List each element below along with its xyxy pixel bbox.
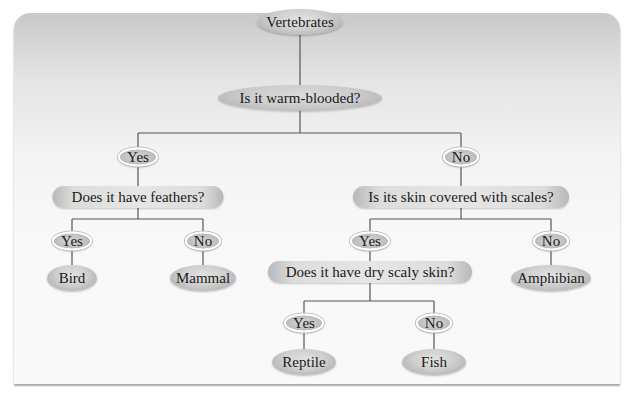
leaf-fish: Fish — [402, 349, 466, 375]
leaf-label: Mammal — [176, 271, 230, 286]
answer-yes-scales: Yes — [350, 232, 390, 251]
answer-no-dry-scaly-skin: No — [416, 314, 452, 333]
answer-yes-feathers: Yes — [52, 232, 92, 251]
question-feathers: Does it have feathers? — [53, 186, 224, 208]
leaf-mammal: Mammal — [170, 265, 236, 291]
answer-no-scales: No — [533, 232, 569, 251]
answer-label: Yes — [127, 150, 149, 165]
answer-label: Yes — [359, 234, 381, 249]
leaf-bird: Bird — [47, 265, 97, 291]
answer-label: No — [542, 234, 560, 249]
answer-yes-dry-scaly-skin: Yes — [284, 314, 324, 333]
question-scales: Is its skin covered with scales? — [353, 186, 569, 208]
question-label: Does it have dry scaly skin? — [286, 265, 455, 280]
leaf-label: Amphibian — [517, 271, 585, 286]
question-label: Does it have feathers? — [72, 190, 205, 205]
answer-label: No — [425, 316, 443, 331]
question-dry-scaly-skin: Does it have dry scaly skin? — [268, 261, 472, 283]
answer-no-feathers: No — [185, 232, 221, 251]
answer-no-warm-blooded: No — [443, 148, 479, 167]
root-label: Vertebrates — [266, 15, 333, 30]
leaf-amphibian: Amphibian — [511, 265, 591, 291]
answer-yes-warm-blooded: Yes — [118, 148, 158, 167]
answer-label: No — [452, 150, 470, 165]
answer-label: Yes — [293, 316, 315, 331]
root-node-vertebrates: Vertebrates — [257, 9, 343, 35]
leaf-label: Reptile — [282, 355, 325, 370]
question-label: Is it warm-blooded? — [240, 91, 361, 106]
question-warm-blooded: Is it warm-blooded? — [218, 85, 382, 111]
answer-label: Yes — [61, 234, 83, 249]
question-label: Is its skin covered with scales? — [368, 190, 553, 205]
leaf-label: Fish — [421, 355, 447, 370]
leaf-reptile: Reptile — [272, 349, 336, 375]
leaf-label: Bird — [59, 271, 86, 286]
answer-label: No — [194, 234, 212, 249]
